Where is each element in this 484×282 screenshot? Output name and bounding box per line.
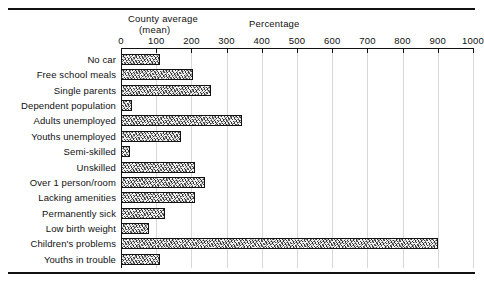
x-tick-label: 500 [289, 36, 305, 46]
bar [121, 100, 132, 111]
chart-row: Single parents [121, 84, 473, 99]
chart-row: Semi-skilled [121, 145, 473, 160]
chart-row: Free school meals [121, 68, 473, 83]
chart-row: Children's problems [121, 237, 473, 252]
chart-row: Low birth weight [121, 222, 473, 237]
category-label: Semi-skilled [64, 145, 116, 159]
x-tick-label: 1000 [462, 36, 484, 46]
x-tick-label: 400 [254, 36, 270, 46]
category-label: Lacking amenities [38, 191, 116, 205]
category-label: Adults unemployed [33, 114, 116, 128]
bar [121, 85, 211, 96]
percentage-axis-title: Percentage [249, 18, 300, 29]
figure-bottom-rule [8, 272, 475, 274]
category-label: Youths in trouble [44, 253, 116, 267]
bar [121, 177, 205, 188]
category-label: Dependent population [21, 99, 116, 113]
x-axis: 01002003004005006007008009001000 [121, 36, 473, 52]
chart-row: Unskilled [121, 161, 473, 176]
bar [121, 131, 181, 142]
bar [121, 192, 195, 203]
gridline [473, 53, 474, 268]
chart-row: Permanently sick [121, 207, 473, 222]
x-tick-label: 900 [430, 36, 446, 46]
plot-area: No carFree school mealsSingle parentsDep… [121, 53, 473, 268]
x-tick-label: 800 [394, 36, 410, 46]
chart-row: Adults unemployed [121, 114, 473, 129]
x-tick-label: 0 [118, 36, 123, 46]
category-label: Single parents [54, 84, 116, 98]
category-label: Low birth weight [46, 222, 116, 236]
chart-row: Youths in trouble [121, 253, 473, 268]
chart-row: Dependent population [121, 99, 473, 114]
category-label: Free school meals [37, 68, 116, 82]
chart-row: Youths unemployed [121, 130, 473, 145]
x-tick-label: 300 [218, 36, 234, 46]
category-label: Youths unemployed [31, 130, 116, 144]
bar [121, 238, 438, 249]
chart-row: Over 1 person/room [121, 176, 473, 191]
county-average-caption-line2: (mean) [139, 24, 170, 35]
bar [121, 208, 165, 219]
bar [121, 69, 193, 80]
x-tick-label: 200 [183, 36, 199, 46]
x-tick-label: 600 [324, 36, 340, 46]
category-label: Over 1 person/room [30, 176, 116, 190]
bar [121, 146, 130, 157]
figure-top-rule [8, 8, 475, 10]
bar [121, 115, 242, 126]
bar [121, 254, 160, 265]
chart-row: No car [121, 53, 473, 68]
category-label: Permanently sick [42, 207, 116, 221]
chart-row: Lacking amenities [121, 191, 473, 206]
bar [121, 223, 149, 234]
bar [121, 162, 195, 173]
county-average-caption-line1: County average [128, 13, 198, 24]
category-label: Unskilled [77, 161, 116, 175]
category-label: No car [87, 53, 116, 67]
x-tick-label: 700 [359, 36, 375, 46]
bar [121, 54, 160, 65]
category-label: Children's problems [30, 237, 116, 251]
x-tick-label: 100 [148, 36, 164, 46]
